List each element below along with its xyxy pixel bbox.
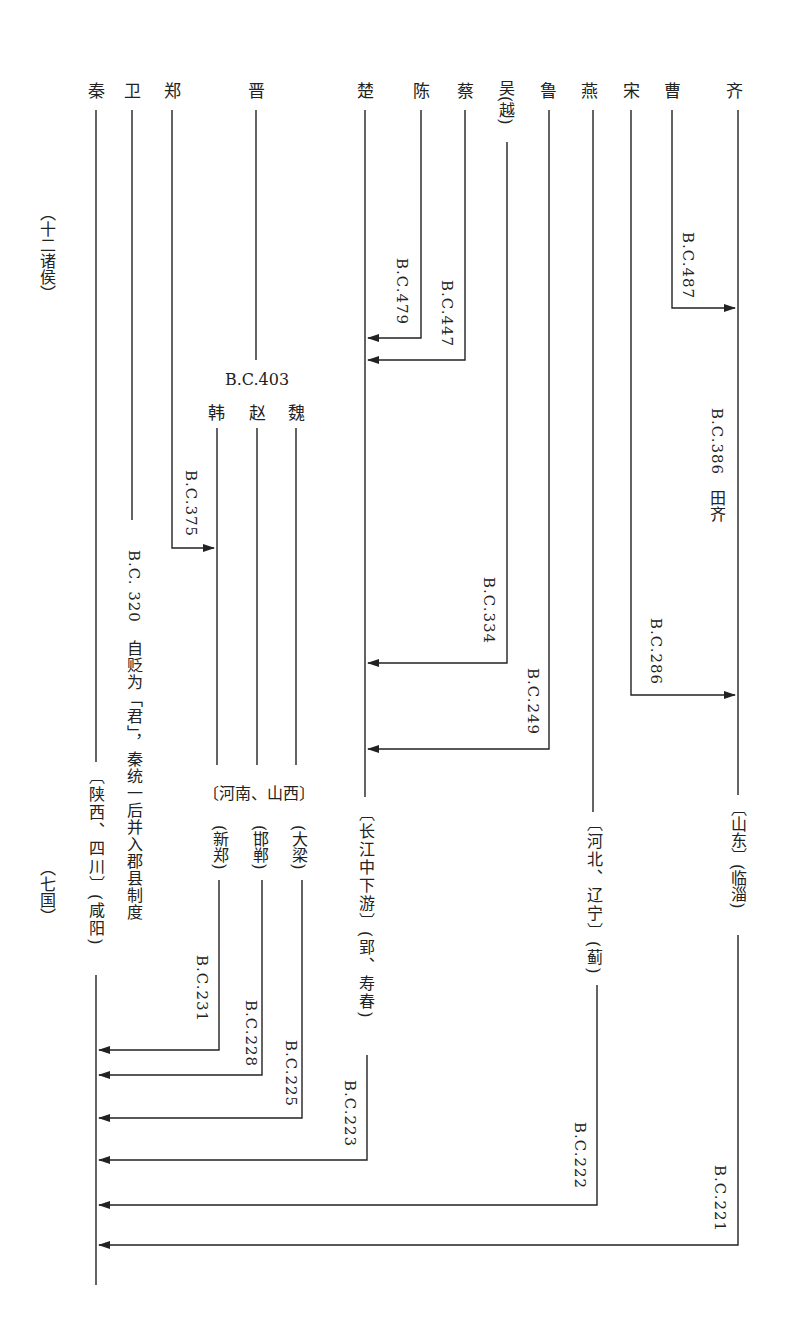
state-jin: 晋 <box>244 82 268 100</box>
han-capital: (新郑) <box>211 825 228 869</box>
state-yan: 燕 <box>577 82 601 100</box>
date-label: B.C.286 <box>648 618 664 685</box>
sanjin-region: 〔河南、山西〕 <box>203 780 315 804</box>
state-cao: 曹 <box>660 82 684 100</box>
state-qin: 秦 <box>84 82 108 100</box>
period-label-seven-states: （七国） <box>38 860 55 924</box>
state-chu: 楚 <box>353 82 377 100</box>
state-zheng: 郑 <box>160 82 184 100</box>
date-label: B.C.223 <box>342 1080 358 1147</box>
date-label: B.C.222 <box>572 1122 588 1189</box>
state-wu-yue: 吴(越) <box>497 80 514 124</box>
wei-capital: (大梁) <box>290 825 307 869</box>
state-unification-diagram: 秦 卫 郑 晋 楚 陈 蔡 吴(越) 鲁 燕 宋 曹 齐 （十二诸侯） （七国）… <box>0 0 785 1325</box>
state-han: 韩 <box>204 404 228 422</box>
diagram-lines <box>0 0 785 1325</box>
date-label: B.C.221 <box>712 1165 728 1232</box>
yan-region: 〔河北、辽宁〕(蓟) <box>585 815 602 975</box>
date-label: B.C.386 <box>709 408 725 475</box>
state-chen: 陈 <box>409 82 433 100</box>
note-wei-demotion: 自贬为「君」，秦统一后并入郡县制度 <box>125 640 142 921</box>
partition-date: B.C.403 <box>225 370 289 389</box>
date-label: B.C.334 <box>481 577 497 644</box>
state-song: 宋 <box>619 82 643 100</box>
state-cai: 蔡 <box>453 82 477 100</box>
state-zhao: 赵 <box>245 404 269 422</box>
period-label-twelve-lords: （十二诸侯） <box>38 205 55 301</box>
state-lu: 鲁 <box>536 82 560 100</box>
note-tian-qi: 田齐 <box>708 490 725 522</box>
date-label: B.C.447 <box>439 280 455 347</box>
state-wei-4: 卫 <box>120 82 144 100</box>
date-label: B.C.375 <box>183 470 199 537</box>
qi-region: 〔山东〕(临淄) <box>729 800 746 908</box>
state-qi: 齐 <box>722 82 746 100</box>
state-wei: 魏 <box>284 404 308 422</box>
date-label: B.C.228 <box>243 1000 259 1067</box>
chu-region: 〔长江中下游〕(郢、寿春) <box>357 805 374 1019</box>
zhao-capital: (邯郸) <box>251 825 268 869</box>
date-label: B.C.487 <box>680 232 696 299</box>
date-label: B.C.225 <box>283 1040 299 1107</box>
date-label: B.C.231 <box>194 955 210 1022</box>
qin-region: 〔陕西、四川〕(咸阳) <box>87 768 104 946</box>
date-label: B.C.249 <box>525 668 541 735</box>
date-label: B.C. 320 <box>126 550 142 623</box>
date-label: B.C.479 <box>394 258 410 325</box>
